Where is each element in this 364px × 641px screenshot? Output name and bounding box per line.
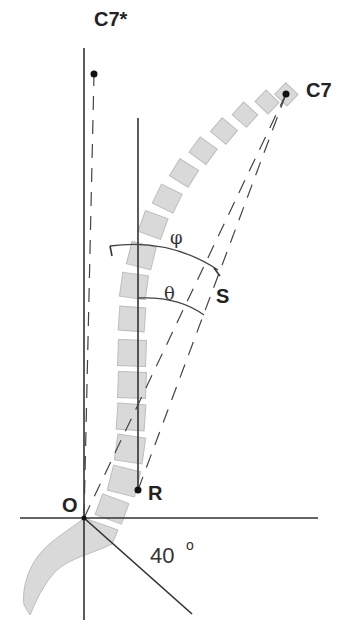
phi-arc-tick-left	[110, 246, 112, 256]
dashed-o-to-c7	[84, 94, 286, 518]
c7star-point	[91, 71, 98, 78]
label-theta: θ	[164, 283, 175, 304]
c7-point	[283, 91, 290, 98]
label-r: R	[148, 482, 163, 504]
label-s: S	[216, 285, 229, 307]
sacrum-shape	[24, 518, 118, 615]
phi-arc	[110, 244, 218, 270]
label-c7-star: C7*	[94, 8, 128, 30]
label-degree: o	[186, 537, 194, 553]
label-c7: C7	[306, 79, 332, 101]
label-angle-40: 40	[150, 543, 174, 568]
origin-point	[82, 516, 87, 521]
pelvic-line-40deg	[84, 518, 192, 614]
vertebrae	[95, 83, 298, 524]
dashed-o-to-c7star	[84, 74, 94, 518]
label-phi: φ	[170, 227, 183, 248]
label-origin: O	[62, 494, 78, 516]
spine-angle-diagram: C7* C7 φ θ S O R 40 o	[0, 0, 364, 641]
r-point	[135, 487, 142, 494]
